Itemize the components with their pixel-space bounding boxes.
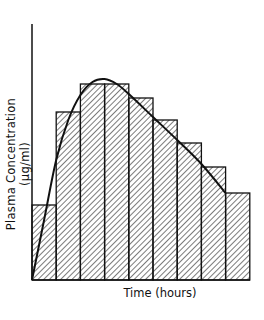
histogram-bar — [201, 167, 225, 280]
x-axis-label: Time (hours) — [100, 286, 220, 300]
chart-canvas — [0, 0, 264, 320]
histogram-bar — [80, 84, 104, 280]
histogram-bar — [153, 120, 177, 280]
histogram-bar — [129, 98, 153, 280]
y-axis-label: Plasma Concentration (μg/ml) — [4, 74, 32, 254]
histogram-bar — [226, 193, 250, 280]
histogram-bar — [105, 84, 129, 280]
histogram-bar — [177, 143, 201, 280]
histogram-bar — [56, 112, 80, 280]
